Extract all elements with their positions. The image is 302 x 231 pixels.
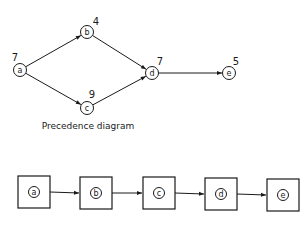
node-label: d [149,69,154,78]
edge-a-c [26,73,81,104]
edge-c-d [93,76,146,105]
node-d: d7 [146,56,164,80]
diagram-canvas: a7b4c9d7e5 Precedence diagram abcde [0,0,302,231]
node-label: c [85,104,89,113]
node-b: b4 [81,16,100,39]
sequence-box-d: d [205,178,237,210]
sequence-arrow-d-e [237,194,266,195]
sequence-box-b: b [80,177,112,209]
node-label: b [84,28,89,37]
node-e: e5 [223,56,240,80]
sequence-box-a: a [18,176,50,208]
node-label: a [18,66,23,75]
precedence-nodes: a7b4c9d7e5 [12,16,239,115]
node-weight: 7 [157,56,163,67]
sequence-boxes: abcde [18,176,299,211]
box-label: d [218,190,223,199]
node-label: e [227,69,232,78]
precedence-diagram-caption: Precedence diagram [42,121,135,131]
box-label: a [32,188,37,197]
box-label: c [157,189,161,198]
node-weight: 9 [89,89,95,100]
sequence-arrow-a-b [50,192,79,193]
precedence-diagram: a7b4c9d7e5 Precedence diagram [12,16,239,131]
node-weight: 7 [12,52,18,63]
box-label: b [93,189,98,198]
sequence-diagram: abcde [18,176,299,211]
sequence-box-e: e [267,179,299,211]
sequence-arrow-c-d [175,193,204,194]
node-c: c9 [81,89,96,115]
node-a: a7 [12,52,27,77]
node-weight: 4 [93,16,99,27]
node-weight: 5 [233,56,239,67]
precedence-edges [26,35,222,104]
edge-a-b [26,35,81,66]
box-label: e [281,191,286,200]
sequence-box-c: c [143,177,175,209]
edge-b-d [92,35,146,69]
